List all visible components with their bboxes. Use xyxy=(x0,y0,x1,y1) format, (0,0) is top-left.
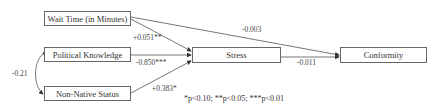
node-conformity: Conformity xyxy=(340,47,427,63)
coef-wait-conformity: -0.003 xyxy=(242,25,261,34)
coef-wait-stress: +0.051** xyxy=(133,33,162,42)
coef-nn-stress: +0.383* xyxy=(152,84,177,93)
significance-footnote: *p<0.10; **p<0.05; ***p<0.01 xyxy=(184,94,284,103)
node-stress: Stress xyxy=(192,47,281,63)
node-non-native-status: Non-Native Status xyxy=(44,86,131,101)
node-political-knowledge: Political Knowledge xyxy=(44,47,131,62)
node-wait-time: Wait Time (in Minutes) xyxy=(44,11,131,26)
coef-pk-nn-correlation: -0.21 xyxy=(12,69,28,78)
coef-pk-stress: -0.850*** xyxy=(136,58,167,67)
coef-stress-conformity: -0.011 xyxy=(297,58,316,67)
